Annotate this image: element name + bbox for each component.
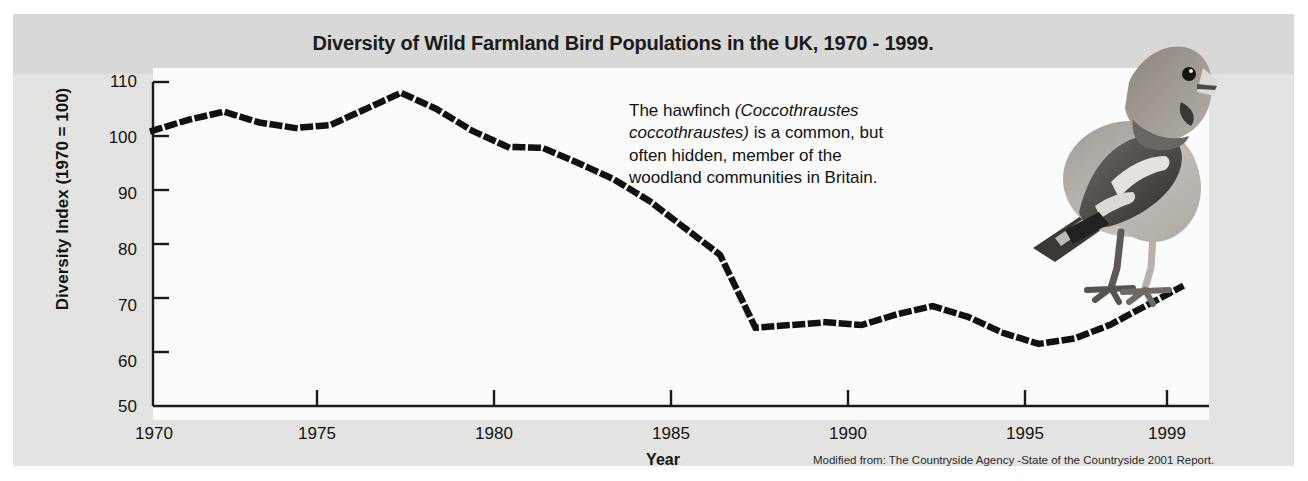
bird-leg-rear bbox=[1111, 232, 1121, 288]
annotation-line-1-plain: The hawfinch bbox=[629, 101, 735, 120]
annotation-text: The hawfinch (Coccothraustes coccothraus… bbox=[629, 100, 929, 190]
bird-eye-glint bbox=[1189, 69, 1193, 73]
annotation-line-2-plain: is a common, but bbox=[749, 123, 883, 142]
annotation-species-part-1: (Coccothraustes bbox=[735, 101, 859, 120]
bird-eye bbox=[1182, 67, 1196, 81]
chart-panel: Diversity of Wild Farmland Bird Populati… bbox=[13, 14, 1294, 466]
bird-leg-front bbox=[1145, 234, 1153, 288]
annotation-species-part-2: coccothraustes) bbox=[629, 123, 749, 142]
hawfinch-photo bbox=[1025, 16, 1217, 308]
annotation-line-2: coccothraustes) is a common, but bbox=[629, 122, 929, 144]
figure-root: Diversity of Wild Farmland Bird Populati… bbox=[0, 0, 1308, 481]
annotation-line-1: The hawfinch (Coccothraustes bbox=[629, 100, 929, 122]
annotation-line-4: woodland communities in Britain. bbox=[629, 167, 929, 189]
bird-foot-front bbox=[1123, 290, 1169, 304]
annotation-line-3: often hidden, member of the bbox=[629, 145, 929, 167]
